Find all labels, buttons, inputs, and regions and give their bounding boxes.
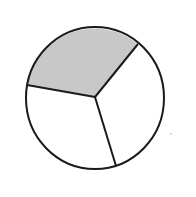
- circle-svg: [0, 0, 196, 197]
- scan-speck: [170, 133, 172, 135]
- fraction-circle-diagram: [0, 0, 196, 197]
